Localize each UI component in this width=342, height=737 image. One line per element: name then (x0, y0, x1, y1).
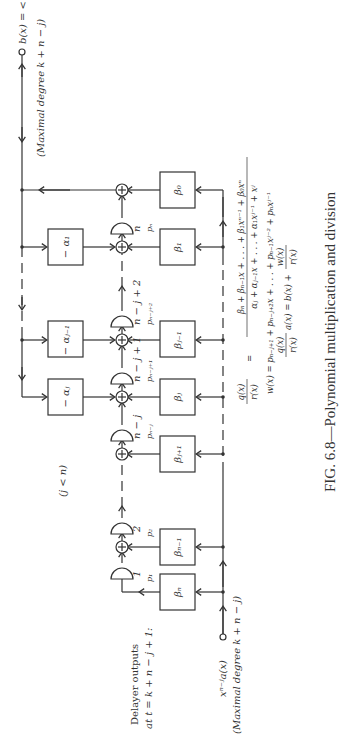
svg-text:(Maximal degree k + n − j): (Maximal degree k + n − j) (231, 596, 242, 734)
input-node (220, 634, 226, 640)
svg-text:p₁: p₁ (145, 574, 154, 582)
svg-text:− α₁: − α₁ (60, 236, 71, 258)
figure-caption: FIG. 6.8—Polynomial multiplication and d… (322, 192, 338, 492)
svg-text:n − j + 1: n − j + 1 (131, 337, 142, 382)
svg-text:w(x): w(x) (275, 248, 285, 267)
svg-text:q(x): q(x) (236, 384, 246, 401)
output-node (19, 49, 25, 55)
svg-text:a(x) = b(x) +: a(x) = b(x) + (283, 274, 293, 330)
svg-text:(Maximal degree k + n − j): (Maximal degree k + n − j) (35, 19, 46, 157)
svg-text:2: 2 (131, 526, 142, 533)
svg-text:αⱼ + αⱼ₋₁x + . . . + α₁xʲ⁻¹ +: αⱼ + αⱼ₋₁x + . . . + α₁xʲ⁻¹ + xʲ (249, 185, 259, 309)
delayer-note: Delayer outputs at t = k + n − j + 1: (129, 628, 154, 729)
svg-text:pₙ₋ⱼ: pₙ₋ⱼ (145, 423, 154, 439)
svg-text:βⱼ: βⱼ (172, 392, 183, 402)
output-labels: b(x) = <q(x)/r(x) a(x)> (Maximal degree … (17, 0, 46, 157)
svg-text:βₙ: βₙ (172, 587, 183, 598)
beta-taps (197, 190, 223, 592)
svg-text:β₀: β₀ (172, 185, 183, 196)
svg-text:− αⱼ: − αⱼ (60, 386, 71, 407)
block-diagram: βₙ βₙ₋₁ βⱼ₊₁ βⱼ βⱼ₋₁ β₁ β₀ − αⱼ − αⱼ₋₁ −… (0, 0, 342, 737)
svg-text:pₙ: pₙ (145, 224, 154, 232)
svg-text:βⱼ₊₁: βⱼ₊₁ (172, 445, 183, 464)
svg-text:βₙ₋₁: βₙ₋₁ (172, 537, 183, 557)
svg-text:r(x): r(x) (288, 249, 298, 265)
svg-text:w(x) = pₙ₋ⱼ₊₁ + pₙ₋ⱼ₊₂x + . .: w(x) = pₙ₋ⱼ₊₁ + pₙ₋ⱼ₊₂x + . . . + pₙ₋₁xʲ… (265, 192, 275, 394)
svg-text:q(x): q(x) (275, 337, 285, 354)
delay-labels: 1 p₁ 2 p₂ n − j pₙ₋ⱼ n − j + 1 pₙ₋ⱼ₊₁ n … (131, 224, 154, 582)
svg-text:β₁: β₁ (172, 242, 183, 253)
svg-text:r(x): r(x) (288, 337, 298, 353)
svg-text:βⱼ₋₁: βⱼ₋₁ (172, 331, 183, 350)
alpha-boxes (48, 229, 114, 415)
svg-text:1: 1 (131, 571, 142, 577)
svg-text:b(x) = <q(x)/r(x) a(x)>: b(x) = <q(x)/r(x) a(x)> (17, 0, 28, 44)
svg-text:=: = (245, 355, 255, 362)
svg-text:n − j + 2: n − j + 2 (131, 280, 142, 325)
svg-text:− αⱼ₋₁: − αⱼ₋₁ (60, 325, 71, 355)
accumulator-chain (22, 190, 122, 592)
svg-text:xⁿ⁻ʲa(x): xⁿ⁻ʲa(x) (217, 660, 228, 697)
svg-text:pₙ₋ⱼ₊₂: pₙ₋ⱼ₊₂ (145, 303, 154, 325)
input-labels: xⁿ⁻ʲa(x) (Maximal degree k + n − j) (217, 596, 242, 734)
rotated-page: βₙ βₙ₋₁ βⱼ₊₁ βⱼ βⱼ₋₁ β₁ β₀ − αⱼ − αⱼ₋₁ −… (0, 0, 342, 737)
condition-label: (j < n) (57, 465, 68, 497)
svg-text:r(x): r(x) (249, 384, 259, 400)
svg-text:Delayer outputs: Delayer outputs (129, 644, 140, 725)
svg-text:βₙ + βₙ₋₁x + . . . + β₁xⁿ⁻¹ +: βₙ + βₙ₋₁x + . . . + β₁xⁿ⁻¹ + β₀xⁿ (236, 179, 246, 315)
svg-text:p₂: p₂ (145, 529, 154, 537)
svg-text:n: n (131, 226, 142, 232)
equations: βₙ + βₙ₋₁x + . . . + β₁xⁿ⁻¹ + β₀xⁿ αⱼ + … (236, 157, 298, 404)
svg-text:at t = k + n − j + 1:: at t = k + n − j + 1: (143, 628, 154, 729)
svg-text:pₙ₋ⱼ₊₁: pₙ₋ⱼ₊₁ (145, 360, 154, 382)
svg-text:n − j: n − j (131, 415, 142, 439)
